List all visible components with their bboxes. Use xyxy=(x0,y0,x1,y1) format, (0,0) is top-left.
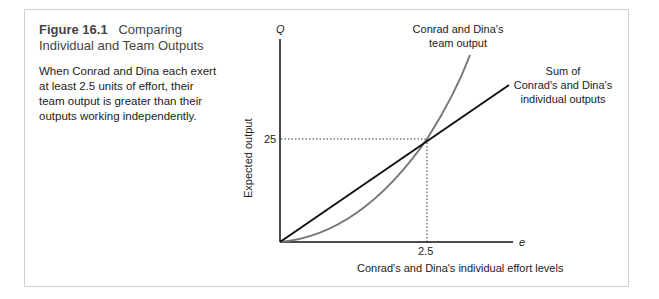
x-tick-2-5: 2.5 xyxy=(418,245,433,257)
x-axis-title: Conrad's and Dina's individual effort le… xyxy=(357,262,564,274)
y-axis-symbol: Q xyxy=(276,23,285,35)
x-axis-symbol: e xyxy=(519,236,525,248)
individual-sum-line xyxy=(280,85,509,242)
sum-label-line3: individual outputs xyxy=(520,93,606,105)
team-label-line1: Conrad and Dina's xyxy=(413,23,504,35)
y-axis-title: Expected output xyxy=(242,118,254,198)
team-output-curve xyxy=(280,55,470,242)
sum-label-line1: Sum of xyxy=(546,65,582,77)
sum-label-line2: Conrad's and Dina's xyxy=(514,79,613,91)
y-tick-25: 25 xyxy=(264,133,276,145)
team-label-line2: team output xyxy=(429,37,487,49)
chart: Q e 25 2.5 Conrad's and Dina's individua… xyxy=(0,0,659,299)
